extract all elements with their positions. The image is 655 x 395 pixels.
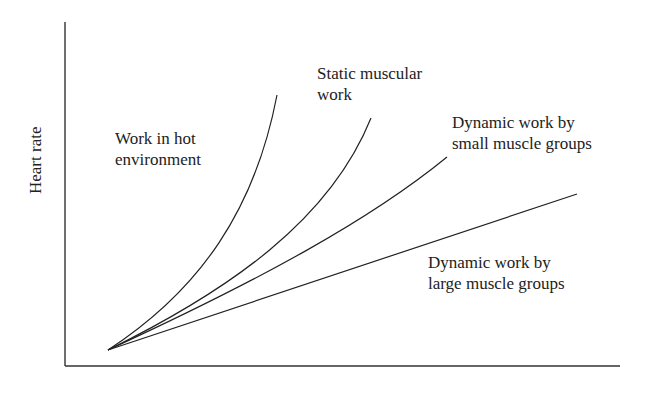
label-line: large muscle groups <box>428 273 565 294</box>
y-axis-label: Heart rate <box>26 127 46 194</box>
label-line: Dynamic work by <box>428 252 565 273</box>
label-line: Work in hot <box>115 128 201 149</box>
chart-canvas <box>0 0 655 395</box>
label-dynamic-large: Dynamic work by large muscle groups <box>428 252 565 294</box>
label-hot-environment: Work in hot environment <box>115 128 201 170</box>
label-line: Dynamic work by <box>452 112 592 133</box>
label-line: environment <box>115 149 201 170</box>
label-line: Static muscular <box>317 63 422 84</box>
label-line: small muscle groups <box>452 133 592 154</box>
curve-dynamic-small <box>108 157 447 350</box>
label-line: work <box>317 84 422 105</box>
label-static-muscular: Static muscular work <box>317 63 422 105</box>
label-dynamic-small: Dynamic work by small muscle groups <box>452 112 592 154</box>
